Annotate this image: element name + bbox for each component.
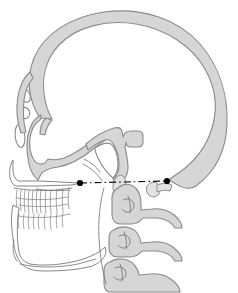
maxillary-tuberosity-curve (83, 164, 102, 181)
sella-turcica-cavity (95, 143, 118, 178)
glabella-strut (17, 72, 33, 133)
porion-landmark (164, 178, 170, 184)
upper-dentition (16, 188, 69, 213)
lower-dentition (18, 212, 70, 229)
orbitale-landmark (77, 180, 83, 186)
cervical-vertebra-c3 (109, 227, 182, 261)
cephalometric-figure (0, 0, 238, 293)
nasal-bone (40, 118, 52, 135)
skull-tracing-svg (0, 0, 238, 293)
mandible (12, 205, 107, 271)
cervical-vertebra-c4 (104, 259, 180, 292)
petrous-extension (157, 184, 172, 193)
